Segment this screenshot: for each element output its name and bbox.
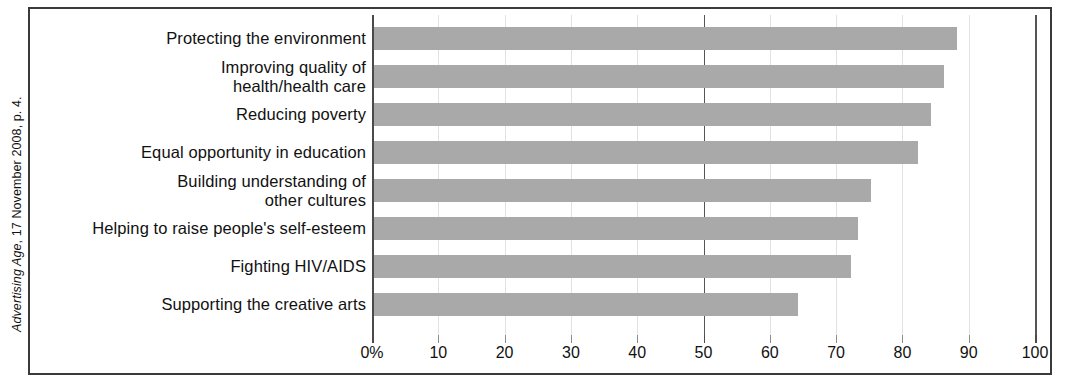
x-tick-label: 100	[1022, 344, 1049, 362]
chart-frame: Protecting the environmentImproving qual…	[28, 7, 1052, 375]
gridline-90	[969, 15, 970, 335]
x-tick-label: 30	[562, 344, 580, 362]
bar	[374, 65, 944, 88]
plot-area	[372, 15, 1054, 335]
source-publication: Advertising Age	[10, 243, 24, 332]
x-tick-70	[836, 335, 837, 343]
x-tick-0	[372, 335, 374, 343]
bar	[374, 141, 918, 164]
gridline-20	[505, 15, 506, 335]
bar	[374, 103, 931, 126]
x-tick-label: 60	[761, 344, 779, 362]
x-tick-label: 50	[695, 344, 713, 362]
category-label: Improving quality of health/health care	[221, 58, 366, 96]
x-tick-20	[505, 335, 506, 343]
bar	[374, 27, 957, 50]
bar	[374, 255, 851, 278]
bar	[374, 293, 798, 316]
x-axis: 0%102030405060708090100	[372, 335, 1054, 375]
category-label: Supporting the creative arts	[161, 295, 366, 314]
category-label: Reducing poverty	[236, 105, 366, 124]
x-tick-80	[902, 335, 903, 343]
gridline-80	[902, 15, 903, 335]
gridline-40	[637, 15, 638, 335]
reference-line-50	[704, 15, 706, 335]
category-label: Building understanding of other cultures	[177, 172, 366, 210]
x-tick-40	[637, 335, 638, 343]
x-tick-60	[770, 335, 771, 343]
x-tick-50	[704, 335, 706, 343]
x-tick-10	[438, 335, 439, 343]
bar	[374, 179, 871, 202]
x-tick-label: 80	[893, 344, 911, 362]
x-tick-label: 20	[496, 344, 514, 362]
category-label: Fighting HIV/AIDS	[230, 257, 366, 276]
category-label: Helping to raise people's self-esteem	[92, 219, 366, 238]
gridline-30	[571, 15, 572, 335]
x-tick-label: 90	[960, 344, 978, 362]
value-axis-line	[372, 15, 374, 335]
gridline-60	[770, 15, 771, 335]
x-tick-30	[571, 335, 572, 343]
source-caption: Advertising Age, 17 November 2008, p. 4.	[10, 92, 24, 332]
x-tick-100	[1035, 335, 1037, 343]
gridline-10	[438, 15, 439, 335]
x-tick-label: 40	[628, 344, 646, 362]
category-label: Protecting the environment	[166, 29, 366, 48]
category-label-column: Protecting the environmentImproving qual…	[40, 15, 372, 335]
x-tick-90	[969, 335, 970, 343]
x-tick-label: 10	[429, 344, 447, 362]
x-tick-label: 70	[827, 344, 845, 362]
bar-chart: Protecting the environmentImproving qual…	[30, 9, 1050, 373]
source-details: , 17 November 2008, p. 4.	[10, 96, 24, 243]
category-label: Equal opportunity in education	[141, 143, 366, 162]
bar	[374, 217, 858, 240]
x-tick-label: 0%	[360, 344, 383, 362]
gridline-70	[836, 15, 837, 335]
reference-line-100	[1035, 15, 1037, 335]
